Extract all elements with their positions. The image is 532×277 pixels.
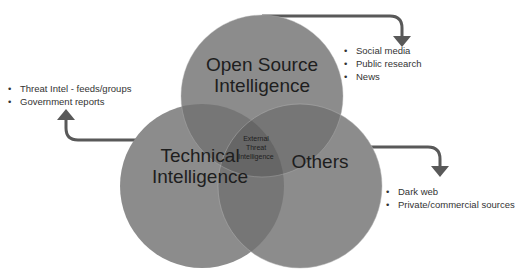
list-item: Public research (342, 57, 421, 70)
list-item: Dark web (384, 185, 515, 198)
callout-osint-list: Social media Public research News (342, 44, 421, 83)
center-line2: Threat (226, 144, 286, 153)
list-item: Social media (342, 44, 421, 57)
osint-line1: Open Source (192, 55, 332, 76)
center-line3: Intelligence (226, 153, 286, 162)
list-item: Government reports (6, 95, 131, 108)
callout-others-list: Dark web Private/commercial sources (384, 185, 515, 211)
list-item: Threat Intel - feeds/groups (6, 82, 131, 95)
label-osint: Open Source Intelligence (192, 55, 332, 97)
center-line1: External (226, 135, 286, 144)
list-item: Private/commercial sources (384, 198, 515, 211)
osint-line2: Intelligence (192, 76, 332, 97)
technical-line2: Intelligence (130, 167, 270, 188)
list-item: News (342, 70, 421, 83)
label-center: External Threat Intelligence (226, 135, 286, 161)
callout-technical-list: Threat Intel - feeds/groups Government r… (6, 82, 131, 108)
